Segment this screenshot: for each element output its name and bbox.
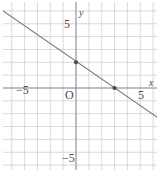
y-tick-label-neg5: −5 — [62, 151, 75, 165]
y-axis-label: y — [78, 7, 84, 18]
origin-label: O — [65, 88, 74, 102]
x-axis-label: x — [148, 77, 154, 88]
x-tick-label-neg5: −5 — [16, 83, 29, 97]
data-point — [112, 86, 116, 90]
x-tick-label-5: 5 — [138, 88, 144, 102]
data-point — [74, 60, 78, 64]
y-tick-label-5: 5 — [64, 17, 70, 31]
coordinate-plot: −5 5 5 −5 O x y — [0, 0, 160, 172]
coordinate-plane-figure: −5 5 5 −5 O x y — [0, 0, 160, 172]
